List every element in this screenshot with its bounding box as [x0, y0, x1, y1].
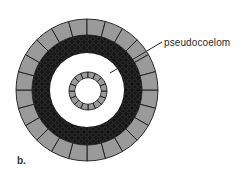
body-cross-section-diagram: [0, 0, 241, 181]
panel-label: b.: [17, 155, 26, 166]
gut-lumen: [76, 79, 101, 104]
pseudocoelom-label: pseudocoelom: [164, 37, 230, 48]
gut-tube: [69, 72, 107, 110]
